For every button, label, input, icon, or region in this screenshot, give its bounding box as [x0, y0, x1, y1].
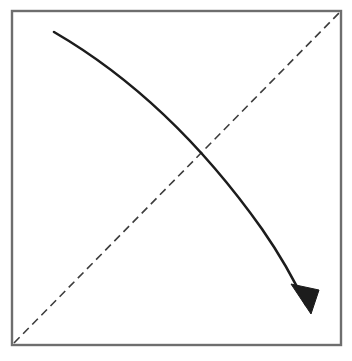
figure-container — [0, 0, 352, 361]
diagram-canvas — [0, 0, 352, 361]
